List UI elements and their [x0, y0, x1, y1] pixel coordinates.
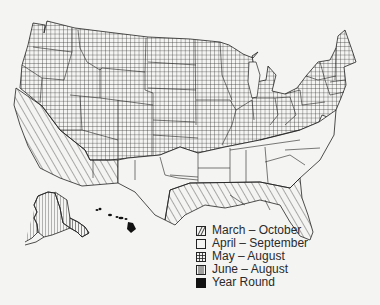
- legend-label: Year Round: [212, 276, 275, 289]
- solid-swatch-icon: [196, 278, 206, 288]
- diagonal-hatch-swatch-icon: [196, 226, 206, 236]
- region-hawaii: [96, 208, 137, 233]
- legend: March – October April – September May – …: [196, 224, 308, 289]
- us-season-map: [0, 0, 380, 305]
- blank-swatch-icon: [196, 239, 206, 249]
- legend-item-year-round: Year Round: [196, 276, 308, 289]
- vertical-hatch-swatch-icon: [196, 265, 206, 275]
- crosshatch-swatch-icon: [196, 252, 206, 262]
